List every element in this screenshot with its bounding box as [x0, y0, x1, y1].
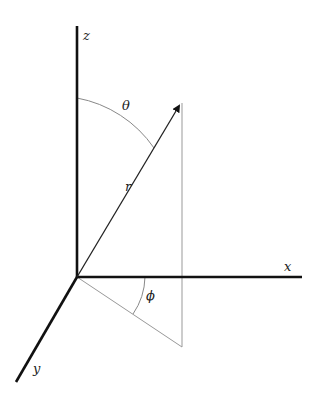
phi-label: ϕ [146, 288, 155, 303]
spherical-coordinates-diagram: z x y r θ ϕ [0, 0, 316, 401]
theta-arc [77, 98, 154, 148]
y-axis-label: y [32, 361, 41, 376]
x-axis-label: x [284, 259, 292, 274]
theta-label: θ [122, 98, 130, 113]
phi-arc [133, 277, 145, 314]
diagram-canvas: z x y r θ ϕ [0, 0, 316, 401]
projection-line [77, 277, 182, 347]
y-axis [16, 277, 77, 382]
r-label: r [125, 179, 132, 194]
z-axis-label: z [82, 28, 90, 43]
